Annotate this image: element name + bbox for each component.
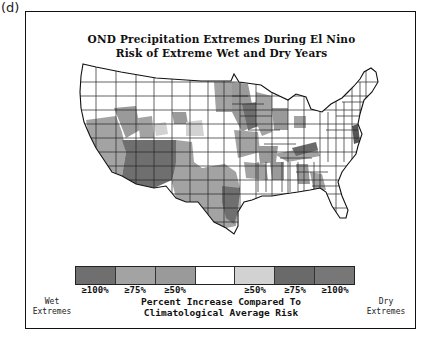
legend-tick-dry-100: ≥100% — [315, 285, 355, 295]
legend-tick-wet-100: ≥100% — [75, 285, 115, 295]
wet-label-line1: Wet — [30, 297, 74, 307]
us-choropleth-map — [26, 12, 417, 262]
legend-swatch-dry-100 — [315, 267, 354, 284]
legend-caption-line2: Climatological Average Risk — [106, 307, 336, 318]
figure-frame: OND Precipitation Extremes During El Nin… — [25, 11, 416, 329]
legend-tick-dry-75: ≥75% — [275, 285, 315, 295]
wet-label-line2: Extremes — [30, 307, 74, 317]
dry-label-line1: Dry — [360, 297, 412, 307]
legend-caption-line1: Percent Increase Compared To — [106, 296, 336, 307]
legend-caption: Percent Increase Compared To Climatologi… — [106, 296, 336, 318]
map-regions — [26, 12, 417, 262]
legend-colorbar — [75, 266, 355, 285]
legend-swatch-wet-75 — [116, 267, 156, 284]
dry-label-line2: Extremes — [360, 307, 412, 317]
legend-swatch-neutral — [196, 267, 236, 284]
legend-tick-wet-50: ≥50% — [155, 285, 195, 295]
dry-extremes-label: Dry Extremes — [360, 297, 412, 317]
wet-extremes-label: Wet Extremes — [30, 297, 74, 317]
legend-swatch-wet-50 — [156, 267, 196, 284]
legend-swatch-dry-50 — [235, 267, 275, 284]
legend-tick-dry-50: ≥50% — [235, 285, 275, 295]
legend-swatch-dry-75 — [275, 267, 315, 284]
panel-label: (d) — [1, 0, 19, 15]
legend-tick-wet-75: ≥75% — [115, 285, 155, 295]
legend-swatch-wet-100 — [76, 267, 116, 284]
